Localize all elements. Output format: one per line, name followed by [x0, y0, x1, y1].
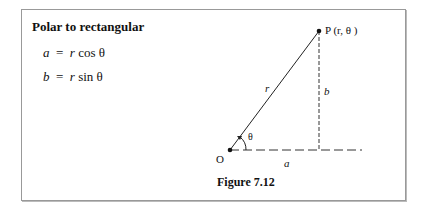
angle-arc: [240, 137, 246, 150]
radius-label: r: [265, 82, 269, 94]
origin-dot: [228, 148, 233, 153]
point-p-dot: [317, 29, 322, 34]
point-label: P (r, θ ): [325, 24, 358, 36]
horizontal-label: a: [284, 157, 290, 169]
figure-caption: Figure 7.12: [217, 175, 275, 190]
angle-label: θ: [248, 131, 253, 142]
radius-line: [230, 31, 319, 150]
vertical-label: b: [324, 85, 330, 97]
origin-label: O: [216, 153, 224, 165]
polar-diagram: [0, 0, 427, 212]
